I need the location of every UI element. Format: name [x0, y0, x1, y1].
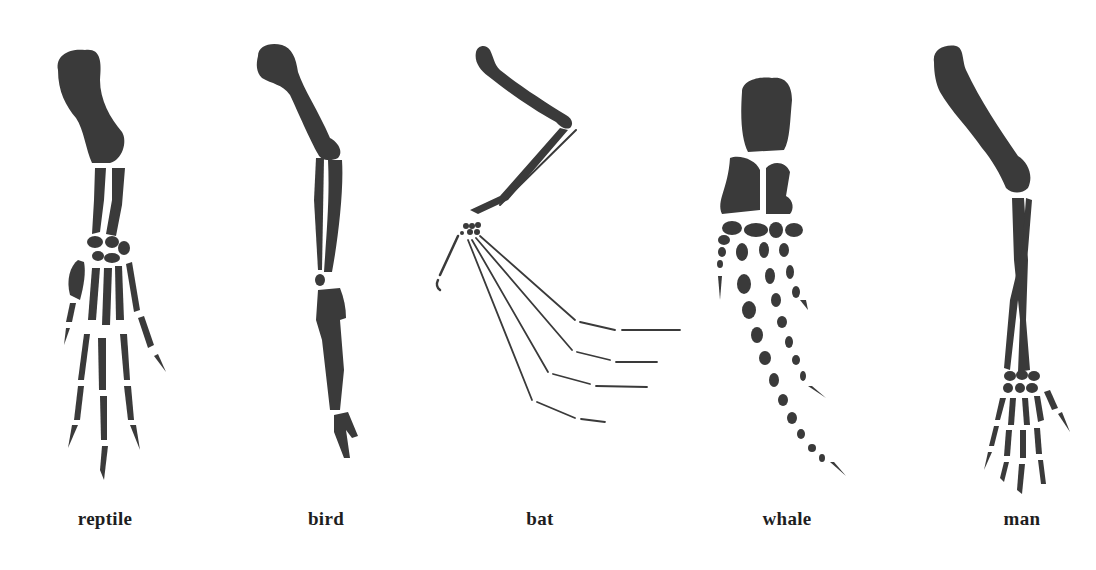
whale-forelimb-skeleton [717, 78, 846, 476]
bird-ulna [324, 160, 342, 272]
bird-radius [314, 158, 324, 270]
bat-humerus [476, 46, 572, 128]
man-humerus [934, 46, 1031, 193]
bird-forelimb-skeleton [257, 44, 358, 458]
whale-label: whale [763, 508, 812, 530]
bird-label: bird [308, 508, 344, 530]
reptile-radius [92, 168, 106, 234]
bat-forelimb-skeleton [437, 46, 680, 422]
reptile-ulna [106, 168, 125, 236]
man-forelimb-skeleton [934, 46, 1070, 494]
reptile-label: reptile [78, 508, 133, 530]
reptile-forelimb-skeleton [58, 50, 166, 480]
whale-humerus [741, 78, 792, 152]
bat-label: bat [526, 508, 553, 530]
reptile-humerus [58, 50, 125, 163]
bird-humerus [257, 44, 341, 160]
man-label: man [1004, 508, 1041, 530]
bat-radius [470, 128, 568, 214]
whale-ulna [766, 163, 793, 214]
whale-radius [720, 157, 760, 214]
forelimb-comparison-diagram [0, 0, 1096, 570]
